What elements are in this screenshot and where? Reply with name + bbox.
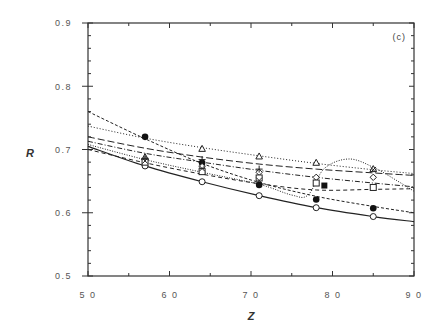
marker-square-open — [199, 169, 205, 175]
y-tick-label: 0.5 — [55, 271, 72, 281]
y-axis-label: R — [26, 147, 34, 159]
marker-square-filled — [321, 183, 327, 189]
marker-square-open — [370, 184, 376, 190]
x-tick-label: 6 0 — [161, 290, 178, 300]
marker-circle-open — [370, 214, 376, 220]
curve-dashed — [88, 150, 414, 191]
marker-square-open — [313, 180, 319, 186]
x-tick-label: 5 0 — [79, 290, 96, 300]
y-tick-label: 0.8 — [55, 82, 72, 92]
tick-labels: 5 0 6 0 7 0 8 0 9 0 0.5 0.6 0.7 0.8 0.9 — [55, 18, 423, 300]
y-tick-label: 0.9 — [55, 18, 72, 28]
marker-diamond-open — [370, 174, 376, 180]
marker-triangle-open — [313, 159, 320, 165]
marker-circle-open — [256, 193, 262, 199]
curves — [88, 112, 414, 222]
curve-dashed-long — [88, 137, 414, 176]
marker-triangle-open — [370, 166, 377, 172]
marker-circle-open — [199, 179, 205, 185]
marker-circle-filled — [370, 205, 377, 212]
data-markers — [142, 134, 377, 220]
marker-circle-filled — [142, 134, 149, 141]
curve-dashed-short — [88, 112, 414, 213]
x-axis-label: Z — [247, 310, 256, 322]
x-tick-label: 7 0 — [242, 290, 259, 300]
x-tick-label: 9 0 — [405, 290, 422, 300]
y-tick-label: 0.6 — [55, 208, 72, 218]
axis-ticks — [82, 23, 414, 276]
panel-label: (c) — [393, 32, 407, 42]
y-tick-label: 0.7 — [55, 145, 72, 155]
curve-dotted — [88, 126, 414, 173]
plot-frame — [88, 23, 414, 276]
marker-triangle-open — [199, 145, 206, 151]
x-tick-label: 8 0 — [324, 290, 341, 300]
marker-circle-open — [313, 205, 319, 211]
chart: 5 0 6 0 7 0 8 0 9 0 0.5 0.6 0.7 0.8 0.9 … — [0, 0, 444, 333]
marker-circle-filled — [313, 196, 320, 203]
